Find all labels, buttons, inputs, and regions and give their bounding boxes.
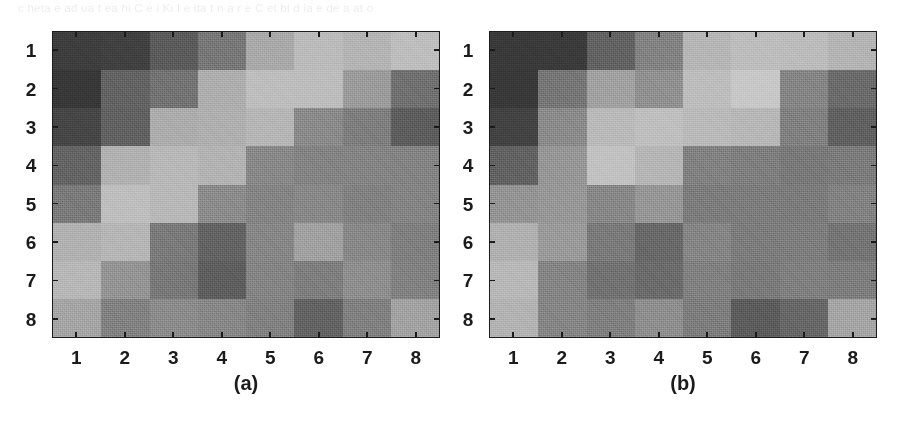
heatmap-cell <box>490 32 538 70</box>
heatmap-cell <box>246 261 294 299</box>
heatmap-cell <box>780 261 828 299</box>
heatmap-cell <box>198 185 246 223</box>
x-tick-mark-top <box>415 31 417 37</box>
x-tick-mark <box>318 332 320 338</box>
heatmap-cell <box>101 185 149 223</box>
heatmap-cell <box>101 108 149 146</box>
heatmap-cell <box>731 185 779 223</box>
heatmap-cell <box>490 261 538 299</box>
y-tick-mark <box>489 203 495 205</box>
y-tick-mark-right <box>871 165 877 167</box>
heatmap-cell <box>538 108 586 146</box>
x-tick-mark <box>75 332 77 338</box>
heatmap-cell <box>828 185 876 223</box>
y-tick-mark-right <box>871 88 877 90</box>
heatmap-cell <box>683 108 731 146</box>
heatmap-cell <box>53 146 101 184</box>
heatmap-cell <box>391 146 439 184</box>
x-tick-label-1: 1 <box>500 348 526 367</box>
x-tick-label-4: 4 <box>646 348 672 367</box>
x-tick-mark-top <box>124 31 126 37</box>
x-tick-mark <box>706 332 708 338</box>
x-tick-mark <box>124 332 126 338</box>
x-tick-label-5: 5 <box>694 348 720 367</box>
y-tick-mark <box>52 165 58 167</box>
heatmap-cell <box>828 32 876 70</box>
heatmap-cell <box>53 108 101 146</box>
x-tick-mark-top <box>366 31 368 37</box>
y-tick-label-1: 1 <box>455 41 481 60</box>
heatmap-cell <box>828 108 876 146</box>
heatmap-cell <box>587 146 635 184</box>
y-tick-mark <box>52 280 58 282</box>
heatmap-cell <box>343 32 391 70</box>
heatmap-cell <box>780 185 828 223</box>
y-tick-mark <box>489 126 495 128</box>
x-tick-mark <box>803 332 805 338</box>
heatmap-cell <box>343 261 391 299</box>
y-tick-mark <box>52 203 58 205</box>
x-tick-label-7: 7 <box>791 348 817 367</box>
panel-b-heatmap-grid <box>490 32 876 337</box>
y-tick-label-7: 7 <box>455 271 481 290</box>
y-tick-mark-right <box>871 49 877 51</box>
heatmap-cell <box>391 185 439 223</box>
heatmap-cell <box>150 146 198 184</box>
x-tick-mark-top <box>318 31 320 37</box>
x-tick-label-2: 2 <box>549 348 575 367</box>
x-tick-mark-top <box>706 31 708 37</box>
heatmap-cell <box>53 223 101 261</box>
heatmap-cell <box>53 299 101 337</box>
heatmap-cell <box>490 70 538 108</box>
heatmap-cell <box>150 261 198 299</box>
y-tick-label-8: 8 <box>455 310 481 329</box>
x-tick-mark-top <box>609 31 611 37</box>
heatmap-cell <box>780 223 828 261</box>
panel-b-plot-area <box>489 31 877 338</box>
heatmap-cell <box>490 146 538 184</box>
x-tick-mark-top <box>269 31 271 37</box>
y-tick-mark <box>52 88 58 90</box>
y-tick-mark <box>489 165 495 167</box>
x-tick-mark-top <box>803 31 805 37</box>
y-tick-label-6: 6 <box>455 233 481 252</box>
x-tick-mark-top <box>172 31 174 37</box>
x-tick-label-6: 6 <box>743 348 769 367</box>
panel-b: 12345678 12345678 (b) <box>437 0 914 425</box>
heatmap-cell <box>101 261 149 299</box>
heatmap-cell <box>587 185 635 223</box>
heatmap-cell <box>635 146 683 184</box>
heatmap-cell <box>731 223 779 261</box>
heatmap-cell <box>101 70 149 108</box>
heatmap-cell <box>101 223 149 261</box>
heatmap-cell <box>490 299 538 337</box>
heatmap-cell <box>294 146 342 184</box>
x-tick-mark-top <box>221 31 223 37</box>
heatmap-cell <box>53 32 101 70</box>
heatmap-cell <box>246 70 294 108</box>
x-tick-mark <box>415 332 417 338</box>
x-tick-mark <box>561 332 563 338</box>
y-tick-label-5: 5 <box>455 195 481 214</box>
heatmap-cell <box>683 146 731 184</box>
heatmap-cell <box>780 146 828 184</box>
x-tick-label-4: 4 <box>209 348 235 367</box>
x-tick-label-1: 1 <box>63 348 89 367</box>
heatmap-cell <box>101 146 149 184</box>
heatmap-cell <box>343 108 391 146</box>
heatmap-cell <box>683 185 731 223</box>
panel-a-heatmap-grid <box>53 32 439 337</box>
heatmap-cell <box>294 185 342 223</box>
heatmap-cell <box>391 223 439 261</box>
heatmap-cell <box>150 32 198 70</box>
y-tick-label-6: 6 <box>18 233 44 252</box>
heatmap-cell <box>198 108 246 146</box>
panel-b-caption: (b) <box>489 372 877 395</box>
heatmap-cell <box>635 108 683 146</box>
x-tick-label-5: 5 <box>257 348 283 367</box>
heatmap-cell <box>198 70 246 108</box>
x-tick-mark <box>852 332 854 338</box>
y-tick-label-7: 7 <box>18 271 44 290</box>
heatmap-cell <box>150 108 198 146</box>
x-tick-mark <box>366 332 368 338</box>
